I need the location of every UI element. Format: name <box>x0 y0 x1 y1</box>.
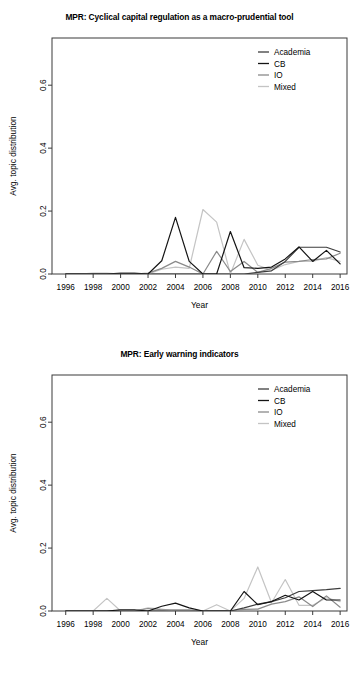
x-tick-label: 2014 <box>304 283 323 292</box>
series-line-cb <box>66 591 340 611</box>
series-line-academia <box>66 247 340 274</box>
x-tick-label: 2004 <box>166 283 185 292</box>
panel-2-plot: 0.00.20.40.61996199820002002200420062008… <box>0 337 359 674</box>
x-tick-label: 2008 <box>221 620 240 629</box>
y-tick-label: 0.0 <box>39 605 48 617</box>
y-tick-label: 0.2 <box>39 542 48 554</box>
x-tick-label: 2006 <box>194 283 213 292</box>
y-tick-label: 0.4 <box>39 142 48 154</box>
series-group <box>66 567 340 611</box>
legend-label-mixed: Mixed <box>274 83 296 92</box>
y-axis-title: Avg. topic distribution <box>8 116 18 196</box>
chart-panel-1: MPR: Cyclical capital regulation as a ma… <box>0 0 359 337</box>
figure-root: MPR: Cyclical capital regulation as a ma… <box>0 0 359 674</box>
y-tick-label: 0.0 <box>39 268 48 280</box>
x-tick-label: 2010 <box>249 283 268 292</box>
panel-2-svg: 0.00.20.40.61996199820002002200420062008… <box>0 337 359 674</box>
legend-label-academia: Academia <box>274 48 311 57</box>
y-tick-label: 0.2 <box>39 205 48 217</box>
x-tick-label: 1998 <box>84 283 103 292</box>
x-tick-label: 2004 <box>166 620 185 629</box>
x-tick-label: 2010 <box>249 620 268 629</box>
series-line-cb <box>66 217 340 274</box>
series-group <box>66 209 340 274</box>
chart-panel-2: MPR: Early warning indicators 0.00.20.40… <box>0 337 359 674</box>
x-tick-label: 1996 <box>57 620 76 629</box>
x-axis-title: Year <box>191 300 208 310</box>
panel-1-plot: 0.00.20.40.61996199820002002200420062008… <box>0 0 359 337</box>
y-axis-title: Avg. topic distribution <box>8 453 18 533</box>
x-tick-label: 2002 <box>139 283 158 292</box>
legend-label-cb: CB <box>274 397 286 406</box>
series-line-mixed <box>66 209 340 274</box>
x-tick-label: 2006 <box>194 620 213 629</box>
panel-1-svg: 0.00.20.40.61996199820002002200420062008… <box>0 0 359 337</box>
y-tick-label: 0.4 <box>39 479 48 491</box>
x-tick-label: 2000 <box>111 283 130 292</box>
legend-label-io: IO <box>274 71 283 80</box>
plot-frame <box>52 375 347 611</box>
x-tick-label: 2016 <box>331 620 350 629</box>
x-tick-label: 2016 <box>331 283 350 292</box>
legend-label-academia: Academia <box>274 385 311 394</box>
series-line-mixed <box>66 567 340 611</box>
x-axis-title: Year <box>191 637 208 647</box>
series-line-io <box>66 251 340 274</box>
plot-frame <box>52 38 347 274</box>
x-tick-label: 2000 <box>111 620 130 629</box>
x-tick-label: 1998 <box>84 620 103 629</box>
x-tick-label: 2002 <box>139 620 158 629</box>
legend-label-mixed: Mixed <box>274 420 296 429</box>
y-tick-label: 0.6 <box>39 79 48 91</box>
x-tick-label: 2012 <box>276 283 295 292</box>
x-tick-label: 2014 <box>304 620 323 629</box>
x-tick-label: 2012 <box>276 620 295 629</box>
legend-label-io: IO <box>274 408 283 417</box>
legend-label-cb: CB <box>274 60 286 69</box>
y-tick-label: 0.6 <box>39 416 48 428</box>
x-tick-label: 2008 <box>221 283 240 292</box>
x-tick-label: 1996 <box>57 283 76 292</box>
